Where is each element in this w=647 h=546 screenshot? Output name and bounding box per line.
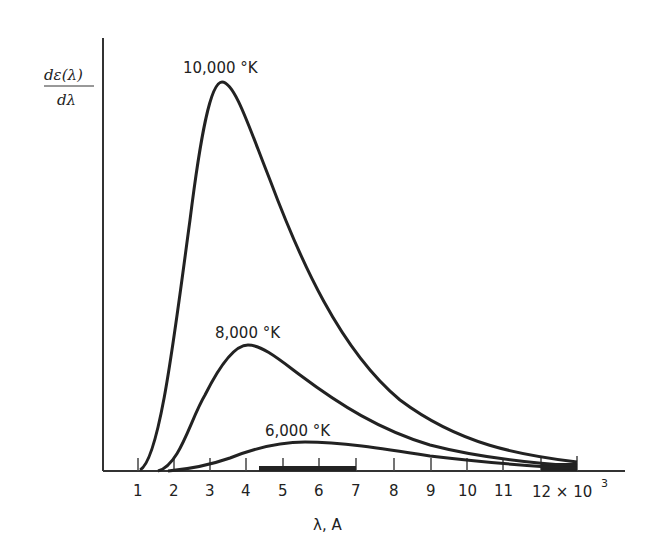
- svg-text:2: 2: [169, 482, 179, 500]
- x-tick-labels: 1 2 3 4 5 6 7 8 9 10 11 12 × 10 3: [133, 477, 608, 501]
- svg-text:11: 11: [494, 482, 513, 500]
- svg-text:5: 5: [278, 482, 288, 500]
- svg-text:6: 6: [314, 482, 324, 500]
- curve-10000K: [140, 82, 577, 470]
- svg-text:10: 10: [458, 482, 477, 500]
- y-axis-label-numerator: dε(λ): [44, 66, 83, 84]
- svg-text:7: 7: [351, 482, 361, 500]
- svg-text:4: 4: [241, 482, 251, 500]
- blackbody-chart: 10,000 °K 8,000 °K 6,000 °K 1 2 3 4 5 6 …: [0, 0, 647, 546]
- x-axis-label: λ, A: [313, 516, 342, 534]
- y-axis-label-denominator: dλ: [57, 91, 76, 109]
- visible-band: [259, 466, 356, 471]
- svg-text:9: 9: [426, 482, 436, 500]
- label-8000K: 8,000 °K: [215, 324, 281, 342]
- svg-text:3: 3: [205, 482, 215, 500]
- label-10000K: 10,000 °K: [183, 59, 259, 77]
- svg-text:3: 3: [601, 477, 608, 490]
- svg-text:12 × 10: 12 × 10: [532, 483, 592, 501]
- label-6000K: 6,000 °K: [265, 422, 331, 440]
- curve-6000K: [168, 442, 577, 471]
- svg-text:1: 1: [133, 482, 143, 500]
- svg-text:8: 8: [389, 482, 399, 500]
